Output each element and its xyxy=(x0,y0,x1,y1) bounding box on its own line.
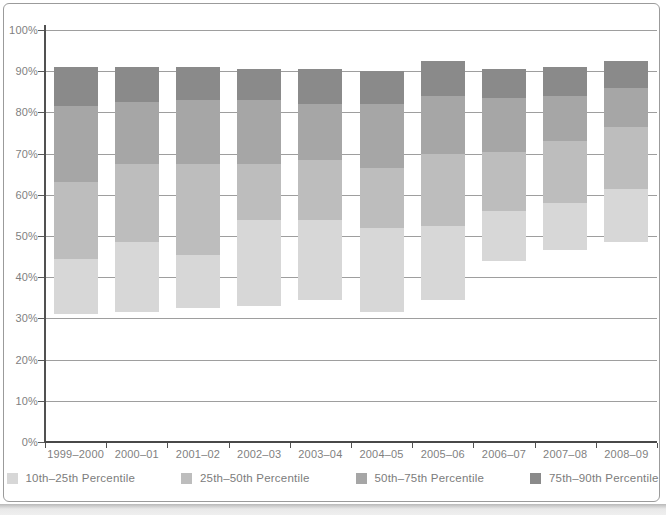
x-axis-tick xyxy=(657,443,658,448)
bar-segment xyxy=(421,226,465,300)
x-axis-category-label: 1999–2000 xyxy=(45,448,106,460)
bar-segment xyxy=(604,88,648,127)
bar-segment xyxy=(543,96,587,141)
gridline xyxy=(45,318,657,319)
bar-segment xyxy=(543,67,587,96)
x-axis-category-label: 2007–08 xyxy=(535,448,596,460)
bar-segment xyxy=(604,61,648,88)
x-axis-category-label: 2001–02 xyxy=(167,448,228,460)
x-axis-tick xyxy=(290,443,291,448)
bar-segment xyxy=(482,211,526,260)
x-axis-category-label: 2005–06 xyxy=(412,448,473,460)
x-axis-tick xyxy=(473,443,474,448)
bar-segment xyxy=(360,228,404,312)
bar-segment xyxy=(115,102,159,164)
bar-segment xyxy=(421,154,465,226)
gridline xyxy=(45,30,657,31)
bar-segment xyxy=(482,98,526,152)
bar-segment xyxy=(54,182,98,258)
x-axis-category-label: 2006–07 xyxy=(473,448,534,460)
bar-segment xyxy=(421,61,465,96)
bar-segment xyxy=(237,69,281,100)
legend-swatch-icon xyxy=(530,473,541,484)
legend-item: 25th–50th Percentile xyxy=(181,472,310,484)
x-axis-category-label: 2008–09 xyxy=(596,448,657,460)
y-axis-line xyxy=(44,25,46,443)
y-axis-tick-label: 20% xyxy=(4,354,38,366)
bar-segment xyxy=(421,96,465,154)
bar-segment xyxy=(115,67,159,102)
bar-segment xyxy=(176,255,220,309)
x-axis-category-label: 2000–01 xyxy=(106,448,167,460)
bar-segment xyxy=(298,69,342,104)
x-axis-tick xyxy=(596,443,597,448)
y-axis-tick-label: 100% xyxy=(4,24,38,36)
legend-item: 10th–25th Percentile xyxy=(7,472,136,484)
bar-segment xyxy=(176,164,220,255)
x-axis-category-label: 2002–03 xyxy=(229,448,290,460)
bar-segment xyxy=(482,69,526,98)
bar-segment xyxy=(298,160,342,220)
bar-segment xyxy=(115,242,159,312)
bar-segment xyxy=(543,141,587,203)
bar-segment xyxy=(54,259,98,315)
legend-item: 75th–90th Percentile xyxy=(530,472,659,484)
x-axis-category-label: 2003–04 xyxy=(290,448,351,460)
gridline xyxy=(45,401,657,402)
y-axis-tick-label: 60% xyxy=(4,189,38,201)
bar-segment xyxy=(360,71,404,104)
gridline xyxy=(45,360,657,361)
legend-swatch-icon xyxy=(181,473,192,484)
legend-swatch-icon xyxy=(356,473,367,484)
bar-segment xyxy=(604,127,648,189)
bar-segment xyxy=(237,100,281,164)
page-bottom-shadow xyxy=(0,504,666,515)
bar-segment xyxy=(237,220,281,307)
bar-segment xyxy=(482,152,526,212)
y-axis-tick-label: 90% xyxy=(4,65,38,77)
legend-swatch-icon xyxy=(7,473,18,484)
bar-segment xyxy=(604,189,648,243)
x-axis-tick xyxy=(412,443,413,448)
plot-area: 0%10%20%30%40%50%60%70%80%90%100%1999–20… xyxy=(4,4,661,501)
bar-segment xyxy=(176,100,220,164)
legend-label: 75th–90th Percentile xyxy=(549,472,659,484)
x-axis-tick xyxy=(535,443,536,448)
y-axis-tick-label: 30% xyxy=(4,312,38,324)
bar-segment xyxy=(54,106,98,182)
bar-segment xyxy=(298,104,342,160)
x-axis-category-label: 2004–05 xyxy=(351,448,412,460)
legend-label: 50th–75th Percentile xyxy=(375,472,485,484)
y-axis-tick-label: 50% xyxy=(4,230,38,242)
bar-segment xyxy=(54,67,98,106)
bar-segment xyxy=(360,104,404,168)
bar-segment xyxy=(298,220,342,300)
y-axis-tick-label: 40% xyxy=(4,271,38,283)
bar-segment xyxy=(176,67,220,100)
bar-segment xyxy=(237,164,281,220)
legend-label: 10th–25th Percentile xyxy=(26,472,136,484)
y-axis-tick-label: 80% xyxy=(4,106,38,118)
bar-segment xyxy=(543,203,587,250)
y-axis-tick-label: 10% xyxy=(4,395,38,407)
x-axis-tick xyxy=(167,443,168,448)
x-axis-tick xyxy=(106,443,107,448)
y-axis-tick-label: 70% xyxy=(4,148,38,160)
legend: 10th–25th Percentile25th–50th Percentile… xyxy=(4,472,661,484)
x-axis-tick xyxy=(229,443,230,448)
chart-frame: 0%10%20%30%40%50%60%70%80%90%100%1999–20… xyxy=(3,3,660,502)
x-axis-tick xyxy=(351,443,352,448)
legend-label: 25th–50th Percentile xyxy=(200,472,310,484)
x-axis-tick xyxy=(45,443,46,448)
y-axis-tick-label: 0% xyxy=(4,436,38,448)
bar-segment xyxy=(360,168,404,228)
bar-segment xyxy=(115,164,159,242)
legend-item: 50th–75th Percentile xyxy=(356,472,485,484)
